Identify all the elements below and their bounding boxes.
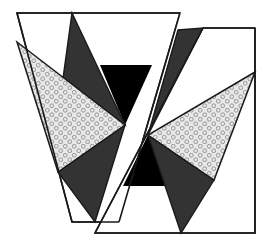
geometric-figure [0, 0, 267, 249]
figure-canvas [0, 0, 267, 249]
